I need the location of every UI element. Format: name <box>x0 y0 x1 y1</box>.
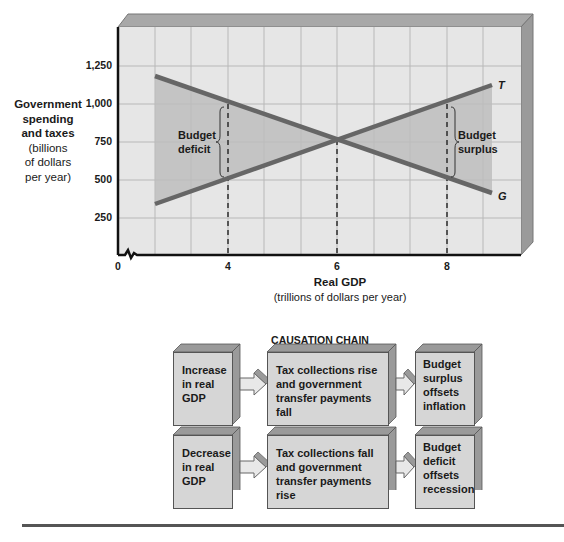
frame-top-face <box>118 14 533 27</box>
frame-side-face <box>521 14 533 255</box>
x-tick-6: 6 <box>327 260 347 272</box>
x-tick-0: 0 <box>108 260 128 272</box>
x-tick-4: 4 <box>218 260 238 272</box>
budget-surplus-label: Budget surplus <box>458 128 498 156</box>
y-tick-1000: 1,000 <box>72 97 112 109</box>
y-tick-500: 500 <box>72 173 112 185</box>
y-tick-250: 250 <box>72 211 112 223</box>
x-tick-8: 8 <box>437 260 457 272</box>
t-series-label: T <box>498 79 505 91</box>
budget-deficit-label: Budget deficit <box>178 128 216 156</box>
g-series-label: G <box>498 190 507 202</box>
y-tick-750: 750 <box>72 135 112 147</box>
y-tick-1250: 1,250 <box>72 59 112 71</box>
x-axis-title: Real GDP <box>230 276 450 288</box>
x-axis-subtitle: (trillions of dollars per year) <box>230 291 450 303</box>
bottom-divider <box>22 524 564 527</box>
